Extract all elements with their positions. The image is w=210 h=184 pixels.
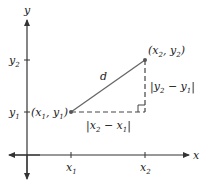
- point-2-label: (x2, y2): [148, 44, 185, 59]
- point-1-label: (x1, y1): [31, 106, 68, 121]
- x-axis-label: x: [193, 149, 200, 162]
- y2-tick-label: y2: [8, 54, 20, 69]
- distance-label: d: [100, 70, 107, 83]
- point-2: [143, 58, 147, 62]
- distance-segment: [71, 60, 145, 112]
- vertical-leg-label: |y2 − y1|: [150, 80, 195, 95]
- point-1: [69, 110, 73, 114]
- y1-tick-label: y1: [8, 106, 20, 121]
- x1-tick-label: x1: [66, 161, 77, 176]
- distance-diagram: y x y2 y1 x1 x2 (x1, y1) (x2, y2) d |x2 …: [0, 0, 210, 184]
- horizontal-leg-label: |x2 − x1|: [86, 119, 131, 134]
- y-axis-label: y: [23, 4, 31, 17]
- right-angle-marker: [138, 105, 145, 112]
- x2-tick-label: x2: [140, 161, 151, 176]
